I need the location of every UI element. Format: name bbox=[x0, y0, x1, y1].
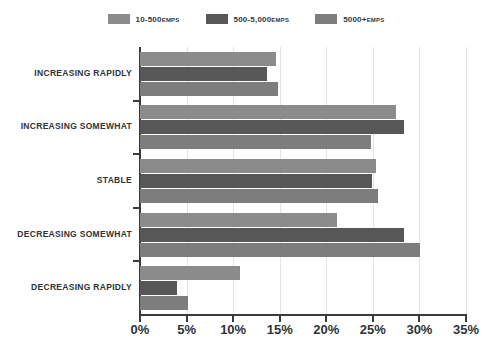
x-tick-3 bbox=[279, 315, 281, 322]
x-tick-0 bbox=[139, 315, 141, 322]
bar-4-0[interactable] bbox=[140, 266, 240, 280]
bar-0-1[interactable] bbox=[140, 67, 267, 81]
x-tick-4 bbox=[325, 315, 327, 322]
legend-item-1[interactable]: 500-5,000EMPS bbox=[206, 14, 290, 24]
y-tick-2 bbox=[133, 153, 140, 155]
x-tick-label-7: 35% bbox=[453, 322, 479, 337]
y-tick-1 bbox=[133, 100, 140, 102]
category-label-2: STABLE bbox=[97, 175, 132, 185]
legend-swatch-2 bbox=[315, 14, 337, 24]
bar-1-2[interactable] bbox=[140, 135, 371, 149]
x-tick-label-6: 30% bbox=[406, 322, 432, 337]
bar-1-0[interactable] bbox=[140, 105, 396, 119]
category-label-1: INCREASING SOMEWHAT bbox=[21, 121, 132, 131]
x-tick-6 bbox=[418, 315, 420, 322]
gridline-7 bbox=[466, 47, 467, 315]
bar-group-4 bbox=[140, 261, 466, 315]
y-tick-3 bbox=[133, 207, 140, 209]
x-tick-5 bbox=[372, 315, 374, 322]
x-tick-1 bbox=[186, 315, 188, 322]
bar-3-0[interactable] bbox=[140, 213, 337, 227]
x-axis-tick-labels: 0%5%10%15%20%25%30%35% bbox=[0, 322, 492, 346]
legend-label-1: 500-5,000EMPS bbox=[234, 15, 290, 24]
x-tick-2 bbox=[232, 315, 234, 322]
legend-label-2: 5000+EMPS bbox=[343, 15, 384, 24]
chart-legend: 10-500EMPS 500-5,000EMPS 5000+EMPS bbox=[0, 14, 492, 24]
legend-label-0-main: 10-500 bbox=[136, 15, 162, 24]
x-tick-label-2: 10% bbox=[220, 322, 246, 337]
x-tick-label-1: 5% bbox=[177, 322, 196, 337]
legend-swatch-0 bbox=[108, 14, 130, 24]
legend-label-0: 10-500EMPS bbox=[136, 15, 180, 24]
x-tick-label-0: 0% bbox=[131, 322, 150, 337]
bar-group-1 bbox=[140, 101, 466, 155]
category-label-0: INCREASING RAPIDLY bbox=[34, 68, 132, 78]
category-label-3: DECREASING SOMEWHAT bbox=[17, 229, 132, 239]
legend-swatch-1 bbox=[206, 14, 228, 24]
legend-item-2[interactable]: 5000+EMPS bbox=[315, 14, 384, 24]
y-tick-4 bbox=[133, 260, 140, 262]
plot-area bbox=[140, 47, 466, 315]
grouped-bar-chart: 10-500EMPS 500-5,000EMPS 5000+EMPS INCRE… bbox=[0, 0, 492, 359]
bar-0-2[interactable] bbox=[140, 82, 278, 96]
y-axis-category-labels: INCREASING RAPIDLYINCREASING SOMEWHATSTA… bbox=[0, 47, 136, 315]
bar-3-2[interactable] bbox=[140, 243, 420, 257]
bar-group-2 bbox=[140, 154, 466, 208]
bar-4-2[interactable] bbox=[140, 296, 188, 310]
x-tick-7 bbox=[465, 315, 467, 322]
x-tick-label-5: 25% bbox=[360, 322, 386, 337]
bar-2-0[interactable] bbox=[140, 159, 376, 173]
bar-4-1[interactable] bbox=[140, 281, 177, 295]
x-tick-label-4: 20% bbox=[313, 322, 339, 337]
category-label-4: DECREASING RAPIDLY bbox=[31, 282, 132, 292]
bar-2-1[interactable] bbox=[140, 174, 372, 188]
legend-label-0-sub: EMPS bbox=[162, 17, 180, 23]
bar-0-0[interactable] bbox=[140, 52, 276, 66]
bar-group-0 bbox=[140, 47, 466, 101]
legend-label-2-main: 5000+ bbox=[343, 15, 366, 24]
x-tick-label-3: 15% bbox=[267, 322, 293, 337]
legend-label-1-main: 500-5,000 bbox=[234, 15, 272, 24]
legend-item-0[interactable]: 10-500EMPS bbox=[108, 14, 180, 24]
legend-label-1-sub: EMPS bbox=[271, 17, 289, 23]
bar-2-2[interactable] bbox=[140, 189, 378, 203]
bar-3-1[interactable] bbox=[140, 228, 404, 242]
bar-group-3 bbox=[140, 208, 466, 262]
legend-label-2-sub: EMPS bbox=[367, 17, 385, 23]
bar-1-1[interactable] bbox=[140, 120, 404, 134]
